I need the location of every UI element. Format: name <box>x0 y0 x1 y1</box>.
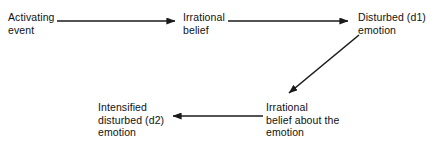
diagram-canvas: Activating event Irrational belief Distu… <box>0 0 435 143</box>
arrow-disturbed-to-belief-emotion <box>289 35 359 93</box>
node-disturbed-emotion: Disturbed (d1) emotion <box>358 11 434 36</box>
node-activating-event: Activating event <box>8 11 70 36</box>
node-irrational-belief: Irrational belief <box>183 11 241 36</box>
node-irrational-belief-about-emotion: Irrational belief about the emotion <box>266 101 358 139</box>
node-intensified-disturbed-emotion: Intensified disturbed (d2) emotion <box>98 101 176 139</box>
